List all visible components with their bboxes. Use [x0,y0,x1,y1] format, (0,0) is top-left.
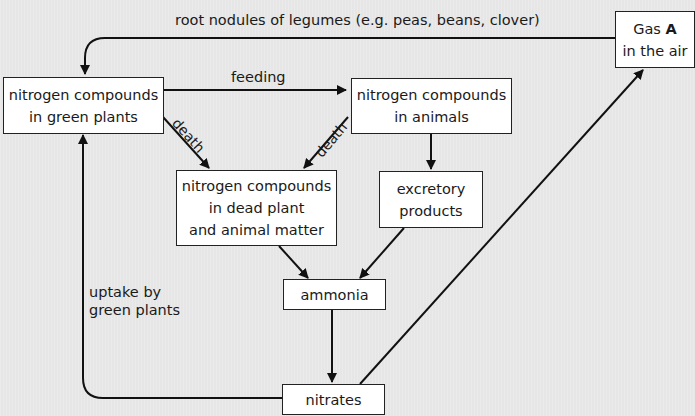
gas-a-letter: A [666,21,677,37]
ammonia-label: ammonia [300,284,368,306]
arrow-root-nodules [85,38,616,74]
animals-line1: nitrogen compounds [357,84,507,106]
dead-matter-line3: and animal matter [189,219,324,241]
label-uptake-line2: green plants [89,301,180,319]
dead-matter-line2: in dead plant [209,197,305,219]
node-animals: nitrogen compounds in animals [351,78,512,134]
label-root-nodules: root nodules of legumes (e.g. peas, bean… [175,11,540,29]
arrow-excretory-to-ammonia [360,228,404,278]
green-plants-line2: in green plants [29,106,138,128]
node-gas-a: Gas A in the air [615,11,695,68]
animals-line2: in animals [394,106,469,128]
label-feeding: feeding [231,68,286,86]
excretory-line1: excretory [397,178,466,200]
arrow-dead-to-ammonia [279,246,308,278]
arrows-layer [0,0,695,416]
node-dead-matter: nitrogen compounds in dead plant and ani… [176,170,337,246]
node-ammonia: ammonia [283,279,386,310]
gas-a-sublabel: in the air [622,40,687,62]
green-plants-line1: nitrogen compounds [9,84,159,106]
node-nitrates: nitrates [282,384,385,415]
label-uptake-line1: uptake by [89,283,161,301]
gas-a-label: Gas [633,21,665,37]
excretory-line2: products [399,200,462,222]
node-green-plants: nitrogen compounds in green plants [3,77,164,134]
dead-matter-line1: nitrogen compounds [182,175,332,197]
node-excretory: excretory products [379,171,483,228]
nitrates-label: nitrates [306,389,362,411]
